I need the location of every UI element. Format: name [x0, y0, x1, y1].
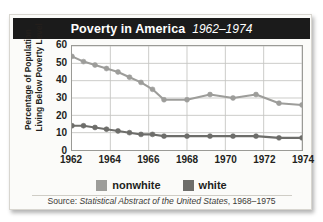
- x-tick-label: 1974: [292, 154, 314, 165]
- chart-plot-svg: [72, 46, 302, 150]
- y-tick-label: 50: [47, 58, 67, 68]
- y-axis-title-line1: Percentage of Population: [23, 28, 34, 132]
- chart-title: Poverty in America: [71, 22, 186, 36]
- x-tick-label: 1970: [215, 154, 237, 165]
- legend-swatch-icon: [96, 180, 107, 191]
- x-tick-label: 1964: [99, 154, 121, 165]
- chart-legend: nonwhitewhite: [13, 175, 310, 195]
- legend-label: nonwhite: [112, 179, 160, 191]
- plot-area: [71, 45, 303, 151]
- x-tick-label: 1968: [176, 154, 198, 165]
- chart-title-years: 1962–1974: [192, 22, 252, 36]
- x-tick-label: 1962: [60, 154, 82, 165]
- plot-wrapper: Percentage of Population Living Below Po…: [13, 41, 310, 179]
- y-tick-label: 30: [47, 93, 67, 103]
- source-note: Source: Statistical Abstract of the Unit…: [13, 196, 310, 206]
- y-tick-label: 60: [47, 40, 67, 50]
- chart-title-banner: Poverty in America 1962–1974: [13, 18, 310, 39]
- poverty-chart-figure: Poverty in America 1962–1974 Percentage …: [0, 0, 323, 222]
- y-axis-title: Percentage of Population Living Below Po…: [23, 28, 44, 132]
- source-prefix: Source:: [47, 196, 79, 206]
- x-axis-tick-labels: 1962196419661968197019721974: [71, 154, 303, 168]
- legend-swatch-icon: [183, 180, 194, 191]
- x-tick-label: 1972: [253, 154, 275, 165]
- y-tick-label: 20: [47, 111, 67, 121]
- legend-label: white: [199, 179, 227, 191]
- source-publication: Statistical Abstract of the United State…: [79, 196, 227, 206]
- source-suffix: , 1968–1975: [228, 196, 276, 206]
- legend-item-nonwhite: nonwhite: [96, 179, 160, 191]
- chart-card: Poverty in America 1962–1974 Percentage …: [9, 14, 312, 210]
- legend-item-white: white: [183, 179, 227, 191]
- y-tick-label: 40: [47, 75, 67, 85]
- y-tick-label: 10: [47, 128, 67, 138]
- x-tick-label: 1966: [137, 154, 159, 165]
- y-axis-title-line2: Living Below Poverty Level: [33, 28, 44, 132]
